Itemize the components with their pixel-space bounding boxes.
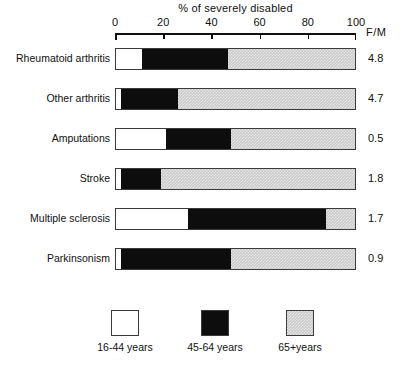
fm-ratio-value: 4.7 [368, 92, 383, 104]
segment-16-44 [116, 209, 188, 229]
x-tick-20 [163, 33, 165, 39]
segment-45-64 [142, 49, 228, 69]
chart-row: Parkinsonism0.9 [0, 248, 411, 272]
segment-45-64 [121, 89, 178, 109]
x-tick-label-40: 40 [205, 16, 217, 28]
segment-16-44 [116, 49, 142, 69]
row-label: Parkinsonism [47, 252, 110, 264]
segment-65-plus [161, 169, 355, 189]
row-label: Amputations [52, 132, 110, 144]
stacked-bar [115, 168, 356, 190]
x-tick-0 [115, 33, 117, 40]
fm-ratio-value: 0.5 [368, 132, 383, 144]
disability-stacked-bar-chart: % of severely disabled 020406080100 F/M … [0, 0, 411, 368]
legend-label: 45-64 years [170, 341, 260, 353]
stacked-bar [115, 248, 356, 270]
row-label: Multiple sclerosis [30, 212, 110, 224]
segment-45-64 [121, 249, 231, 269]
x-tick-40 [211, 33, 213, 39]
segment-65-plus [231, 249, 355, 269]
fm-column-header: F/M [366, 26, 386, 38]
segment-45-64 [166, 129, 231, 149]
legend-swatch-white [111, 310, 139, 336]
row-label: Rheumatoid arthritis [16, 52, 110, 64]
x-tick-80 [308, 33, 310, 39]
fm-ratio-value: 1.7 [368, 212, 383, 224]
legend-item: 16-44 years [80, 310, 170, 353]
row-label: Stroke [80, 172, 110, 184]
legend-swatch-grey [286, 310, 314, 336]
segment-45-64 [121, 169, 162, 189]
x-axis-tick-labels: 020406080100 [0, 16, 411, 30]
chart-row: Rheumatoid arthritis4.8 [0, 48, 411, 72]
chart-row: Other arthritis4.7 [0, 88, 411, 112]
segment-65-plus [178, 89, 355, 109]
chart-row: Multiple sclerosis1.7 [0, 208, 411, 232]
segment-65-plus [228, 49, 355, 69]
segment-65-plus [326, 209, 355, 229]
stacked-bar [115, 88, 356, 110]
fm-ratio-value: 1.8 [368, 172, 383, 184]
legend-label: 16-44 years [80, 341, 170, 353]
stacked-bar [115, 208, 356, 230]
x-tick-label-20: 20 [157, 16, 169, 28]
legend-item: 45-64 years [170, 310, 260, 353]
legend-item: 65+years [255, 310, 345, 353]
chart-row: Stroke1.8 [0, 168, 411, 192]
x-tick-100 [355, 33, 357, 40]
chart-title: % of severely disabled [115, 2, 356, 14]
x-tick-label-0: 0 [112, 16, 118, 28]
legend-label: 65+years [255, 341, 345, 353]
stacked-bar [115, 128, 356, 150]
row-label: Other arthritis [46, 92, 110, 104]
x-tick-label-60: 60 [253, 16, 265, 28]
fm-ratio-value: 0.9 [368, 252, 383, 264]
segment-16-44 [116, 129, 166, 149]
chart-legend: 16-44 years45-64 years65+years [0, 310, 411, 350]
chart-row: Amputations0.5 [0, 128, 411, 152]
fm-ratio-value: 4.8 [368, 52, 383, 64]
x-axis-line [115, 33, 356, 35]
legend-swatch-black [201, 310, 229, 336]
segment-45-64 [188, 209, 327, 229]
x-tick-label-100: 100 [347, 16, 365, 28]
x-tick-label-80: 80 [302, 16, 314, 28]
stacked-bar [115, 48, 356, 70]
x-tick-60 [260, 33, 262, 39]
segment-65-plus [231, 129, 355, 149]
